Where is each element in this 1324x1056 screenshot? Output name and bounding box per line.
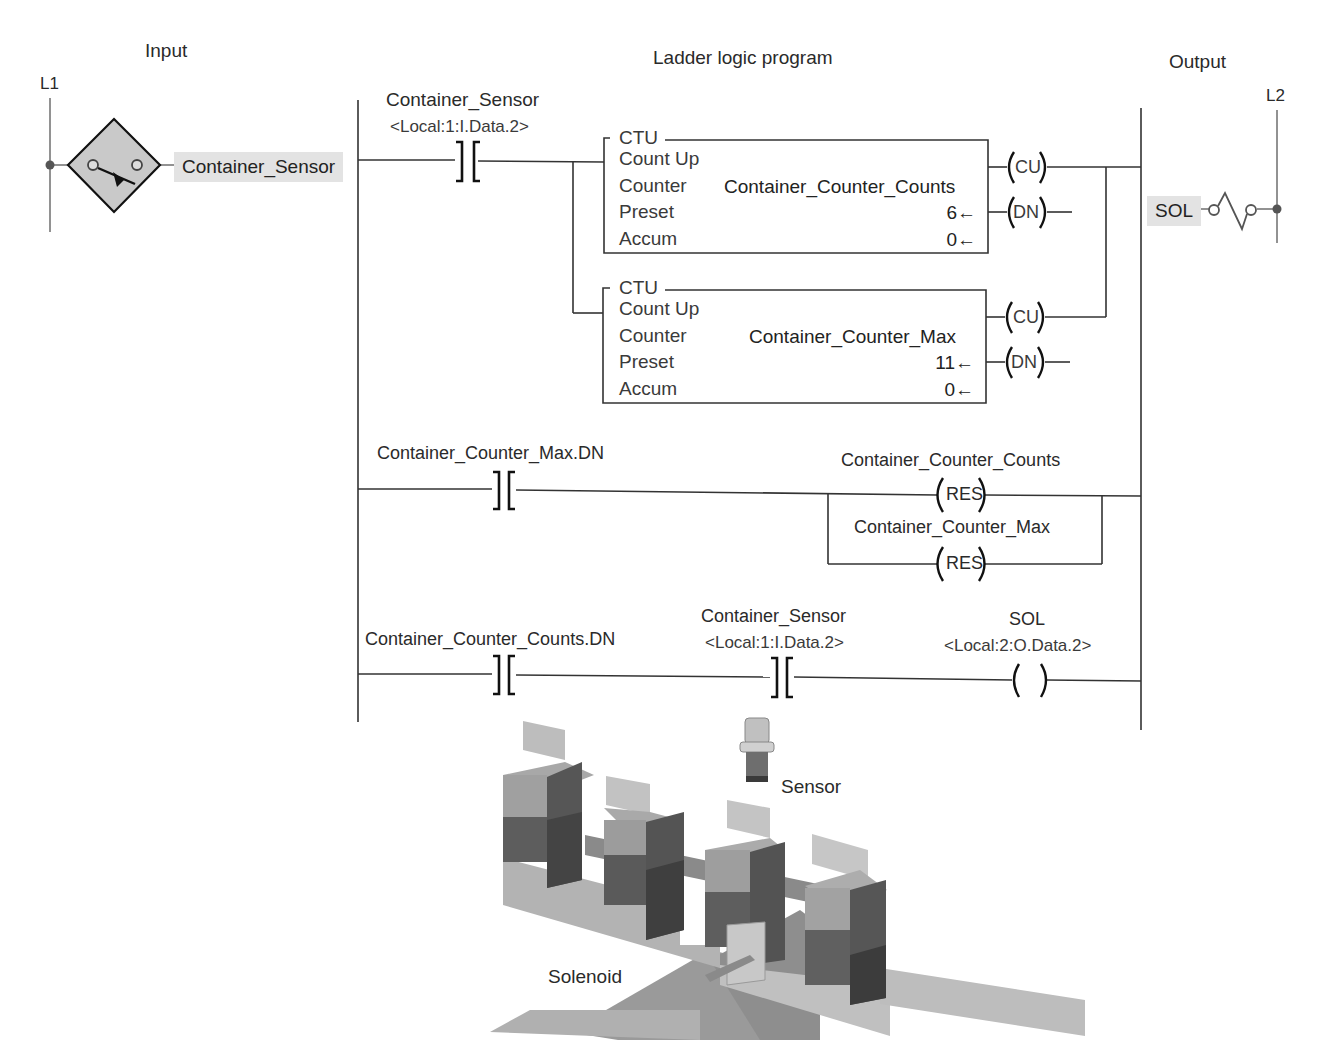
- ctu1-dn-output: DN: [1013, 202, 1039, 223]
- ctu1-accum-value: 0←: [946, 229, 976, 251]
- ctu1-preset-value: 6←: [946, 202, 976, 224]
- sensor-label: Sensor: [781, 776, 841, 798]
- solenoid-coil-icon: [1209, 193, 1282, 229]
- ctu1-accum-label: Accum: [619, 228, 677, 250]
- rung3-contact2-tag: Container_Sensor: [701, 606, 846, 627]
- rung2-reset1-tag: Container_Counter_Counts: [841, 450, 1060, 471]
- ctu1-title: Count Up: [619, 148, 699, 170]
- ctu2-preset-label: Preset: [619, 351, 674, 373]
- input-tag-label: Container_Sensor: [174, 152, 343, 182]
- output-header: Output: [1169, 51, 1226, 73]
- ctu2-counter-value: Container_Counter_Max: [749, 326, 956, 348]
- rung1-contact-tag: Container_Sensor: [386, 89, 539, 111]
- rung2-contact-tag: Container_Counter_Max.DN: [377, 443, 604, 464]
- ctu2-accum-label: Accum: [619, 378, 677, 400]
- program-header: Ladder logic program: [653, 47, 833, 69]
- rung1-contact-address: <Local:1:I.Data.2>: [390, 117, 529, 137]
- ctu2-accum-value: 0←: [944, 379, 974, 401]
- rung3-contact1-tag: Container_Counter_Counts.DN: [365, 629, 615, 650]
- ctu2-type: CTU: [619, 277, 658, 299]
- rung3-coil-address: <Local:2:O.Data.2>: [944, 636, 1091, 656]
- ctu2-dn-output: DN: [1011, 352, 1037, 373]
- rail-label-l1: L1: [40, 74, 59, 94]
- sensor-device-icon: [740, 718, 774, 782]
- rung2-reset2-label: RES: [946, 553, 983, 574]
- ctu1-cu-output: CU: [1015, 157, 1041, 178]
- ctu2-counter-label: Counter: [619, 325, 687, 347]
- ctu2-title: Count Up: [619, 298, 699, 320]
- ctu1-counter-value: Container_Counter_Counts: [724, 176, 955, 198]
- solenoid-label: Solenoid: [548, 966, 622, 988]
- ctu1-type: CTU: [619, 127, 658, 149]
- rung2-reset2-tag: Container_Counter_Max: [854, 517, 1050, 538]
- ctu2-preset-value: 11←: [935, 352, 974, 374]
- rung3-contact2-address: <Local:1:I.Data.2>: [705, 633, 844, 653]
- ctu1-counter-label: Counter: [619, 175, 687, 197]
- rung3-coil-tag: SOL: [1009, 609, 1045, 630]
- input-header: Input: [145, 40, 187, 62]
- rung2-reset1-label: RES: [946, 484, 983, 505]
- conveyor-illustration: [490, 718, 1085, 1040]
- ctu2-cu-output: CU: [1013, 307, 1039, 328]
- output-tag-label: SOL: [1147, 196, 1201, 226]
- rail-label-l2: L2: [1266, 86, 1285, 106]
- ctu1-preset-label: Preset: [619, 201, 674, 223]
